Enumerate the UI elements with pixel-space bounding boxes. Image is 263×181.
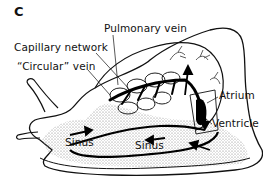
label-sinus-head: Sinus: [65, 137, 94, 148]
label-capillary-network: Capillary network: [14, 42, 108, 53]
label-pulmonary-vein: Pulmonary vein: [104, 23, 187, 34]
label-ventricle: Ventricle: [212, 118, 259, 129]
panel-letter: C: [14, 4, 24, 19]
snail-circulation-diagram: C Pulmonary vein Capillary network “Circ…: [0, 0, 263, 181]
label-atrium: Atrium: [219, 90, 255, 101]
label-circular-vein: “Circular” vein: [17, 61, 95, 72]
upper-tentacle-icon: [27, 79, 58, 112]
label-sinus-foot: Sinus: [135, 140, 164, 151]
